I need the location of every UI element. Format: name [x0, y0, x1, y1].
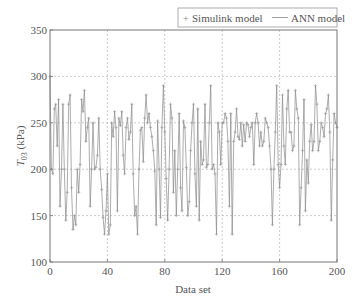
y-tick-label: 300 [31, 70, 48, 82]
x-tick-label: 200 [329, 265, 346, 277]
y-tick-label: 200 [31, 163, 48, 175]
legend-ann-label: ANN model [291, 12, 345, 24]
ann-model-line [50, 76, 337, 234]
y-tick-label: 150 [31, 210, 48, 222]
x-tick-label: 120 [214, 265, 231, 277]
y-tick-label: 100 [31, 256, 48, 268]
legend: + Simulink model ANN model [178, 8, 345, 27]
x-tick-label: 160 [271, 265, 288, 277]
y-axis-title: T03 (kPa) [14, 125, 29, 166]
plus-marker-icon: + [183, 13, 189, 24]
x-tick-label: 40 [102, 265, 114, 277]
x-tick-label: 80 [159, 265, 171, 277]
chart-svg: 100150200250300350 04080120160200 Data s… [0, 0, 359, 301]
y-tick-label: 250 [31, 117, 48, 129]
legend-simulink-label: Simulink model [192, 12, 263, 24]
x-axis-title: Data set [175, 283, 211, 295]
y-tick-label: 350 [31, 24, 48, 36]
x-tick-label: 0 [47, 265, 53, 277]
